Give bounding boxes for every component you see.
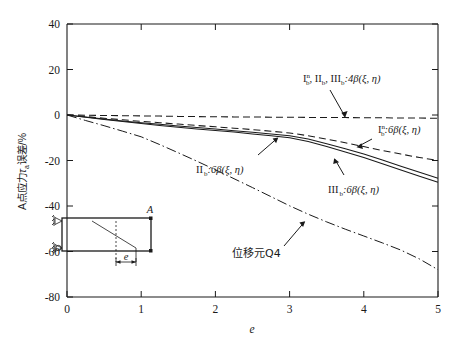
inset-dimension-label: e	[124, 251, 129, 262]
x-tick-label-2: 2	[213, 303, 219, 315]
x-tick-label-0: 0	[64, 303, 70, 315]
y-tick-label-20: 20	[49, 64, 61, 76]
annotation-III-6beta-roman: III	[328, 184, 339, 195]
y-tick-label-neg40: -40	[45, 200, 61, 212]
x-tick-label-4: 4	[361, 303, 367, 315]
inset-corner-marker	[149, 249, 153, 253]
y-tick-label-40: 40	[49, 18, 61, 30]
y-axis-title-part1: A点应力	[16, 173, 28, 210]
y-axis-title: A点应力τa误差/%	[16, 133, 30, 210]
x-axis-title: e	[249, 323, 254, 335]
annotation-II-6beta-roman: II	[196, 164, 203, 175]
annotation-I-6beta-tail: :6β(ξ, η)	[385, 124, 421, 136]
x-tick-label-1: 1	[138, 303, 144, 315]
x-tick-label-5: 5	[435, 303, 441, 315]
y-axis-title-part2: 误差/%	[16, 133, 28, 165]
y-tick-label-0: 0	[54, 109, 60, 121]
annotation-4beta-tail: :4β(ξ, η)	[345, 73, 381, 85]
x-tick-label-3: 3	[287, 303, 293, 315]
annotation-q4: 位移元Q4	[232, 246, 281, 260]
inset-point-a-marker	[149, 217, 153, 221]
annotation-III-6beta-tail: :6β(ξ, η)	[343, 184, 379, 196]
y-tick-label-neg20: -20	[45, 155, 61, 167]
chart-svg: 40 20 0 -20 -40 -60 -80 0 1 2 3 4 5 e A点…	[0, 0, 452, 347]
annotation-4beta-roman3: III	[331, 73, 342, 84]
y-tick-label-neg80: -80	[45, 291, 61, 303]
inset-point-a-label: A	[146, 204, 154, 215]
svg-text:A点应力τa误差/%: A点应力τa误差/%	[16, 133, 30, 210]
figure-container: 40 20 0 -20 -40 -60 -80 0 1 2 3 4 5 e A点…	[0, 0, 452, 347]
annotation-II-6beta-tail: :6β(ξ, η)	[208, 164, 244, 176]
